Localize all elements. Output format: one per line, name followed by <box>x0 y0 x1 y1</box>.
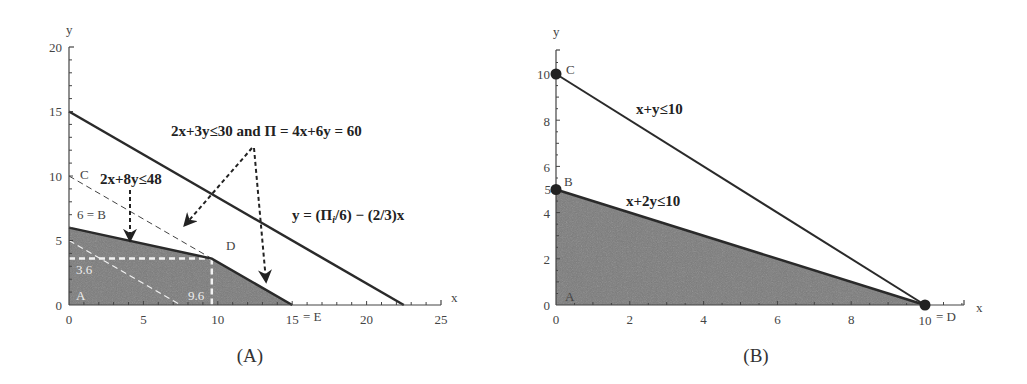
constraint-2x3y-annotation: 2x+3y≤30 and Π = 4x+6y = 60 <box>171 123 362 139</box>
constraint-x2y-annotation: x+2y≤10 <box>626 193 680 209</box>
arrow-2x3y-right <box>254 148 266 281</box>
y-tick-label: 2 <box>544 252 551 267</box>
y-ticks-b <box>556 63 560 294</box>
e-label: = E <box>303 309 322 324</box>
x-tick-label: 6 <box>774 312 781 327</box>
point-c-label: C <box>80 167 89 182</box>
point-c-marker <box>551 69 562 80</box>
point-a-label: A <box>565 289 575 304</box>
y-tick-label: 15 <box>49 104 62 119</box>
y-tick-label: 0 <box>544 298 551 313</box>
x-tick-label: 5 <box>140 312 147 327</box>
feasible-region-a <box>69 228 292 305</box>
constraint-xy-annotation: x+y≤10 <box>636 101 683 117</box>
constraint-2x8y-annotation: 2x+8y≤48 <box>100 171 162 187</box>
y-tick-label: 5 <box>56 233 63 248</box>
value-3-6-label: 3.6 <box>76 262 93 277</box>
caption-b: (B) <box>743 345 768 367</box>
value-9-6-label: 9.6 <box>188 288 205 303</box>
y-tick-label: 10 <box>537 67 550 82</box>
point-b-marker <box>551 184 562 195</box>
chart-b: 0 2 4 6 8 10 = D 0 2 4 5 6 8 10 x y C B … <box>537 24 983 367</box>
y-tick-label: 5 <box>545 182 552 197</box>
y-axis-label-a: y <box>66 22 73 37</box>
x-tick-label: 8 <box>848 312 855 327</box>
arrow-2x3y-left <box>185 148 252 225</box>
y-tick-label: 8 <box>544 114 551 129</box>
x-tick-label: 25 <box>435 312 448 327</box>
point-c-label: C <box>566 62 575 77</box>
point-a-label: A <box>76 288 86 303</box>
isoprofit-equation-annotation: y = (Πi/6) − (2/3)x <box>292 207 405 225</box>
y-tick-label: 6 <box>544 160 551 175</box>
y-axis-label-b: y <box>553 24 560 39</box>
x-tick-label: 20 <box>360 312 373 327</box>
point-d-marker <box>920 300 931 311</box>
x-tick-label: 4 <box>700 312 707 327</box>
chart-a: 0 5 10 15 = E 20 25 0 5 10 15 20 x y 6 =… <box>49 22 458 367</box>
x-tick-label: 10 <box>211 312 224 327</box>
caption-a: (A) <box>237 345 263 367</box>
point-b-label: B <box>564 174 573 189</box>
x-tick-label: 10 <box>919 313 932 328</box>
y-tick-label: 20 <box>49 40 62 55</box>
y-tick-label: 10 <box>49 169 62 184</box>
x-tick-label: 0 <box>553 312 560 327</box>
d-label: = D <box>936 309 956 324</box>
x-tick-label: 2 <box>627 312 634 327</box>
point-d-label: D <box>226 238 235 253</box>
y-tick-label: 0 <box>56 298 63 313</box>
x-tick-label: 0 <box>66 312 73 327</box>
point-b-label: 6 = B <box>77 207 106 222</box>
y-tick-label: 4 <box>544 206 551 221</box>
figure-canvas: 0 5 10 15 = E 20 25 0 5 10 15 20 x y 6 =… <box>0 0 1027 384</box>
x-tick-label: 15 <box>286 312 299 327</box>
x-axis-label-b: x <box>976 300 983 315</box>
x-axis-label-a: x <box>451 290 458 305</box>
